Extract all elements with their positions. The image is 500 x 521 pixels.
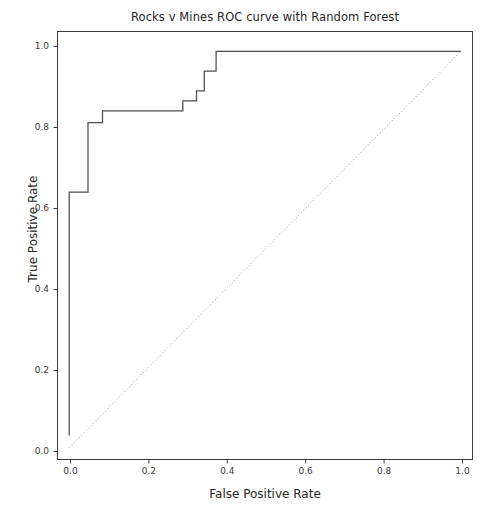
y-axis-ticks bbox=[54, 47, 58, 452]
ytick-label-5: 1.0 bbox=[9, 41, 49, 51]
roc-curve-line bbox=[69, 51, 461, 435]
axes-frame bbox=[58, 32, 473, 460]
xtick-label-4: 0.8 bbox=[364, 466, 404, 476]
figure-canvas: Rocks v Mines ROC curve with Random Fore… bbox=[0, 0, 500, 521]
y-axis-label: True Positive Rate bbox=[26, 149, 40, 309]
plot-area bbox=[0, 0, 500, 521]
ytick-label-4: 0.8 bbox=[9, 122, 49, 132]
xtick-label-3: 0.6 bbox=[286, 466, 326, 476]
ytick-label-0: 0.0 bbox=[9, 446, 49, 456]
xtick-label-1: 0.2 bbox=[129, 466, 169, 476]
xtick-label-0: 0.0 bbox=[51, 466, 91, 476]
ytick-label-1: 0.2 bbox=[9, 365, 49, 375]
x-axis-label: False Positive Rate bbox=[57, 487, 473, 501]
x-axis-ticks bbox=[71, 460, 463, 464]
xtick-label-5: 1.0 bbox=[443, 466, 483, 476]
xtick-label-2: 0.4 bbox=[207, 466, 247, 476]
